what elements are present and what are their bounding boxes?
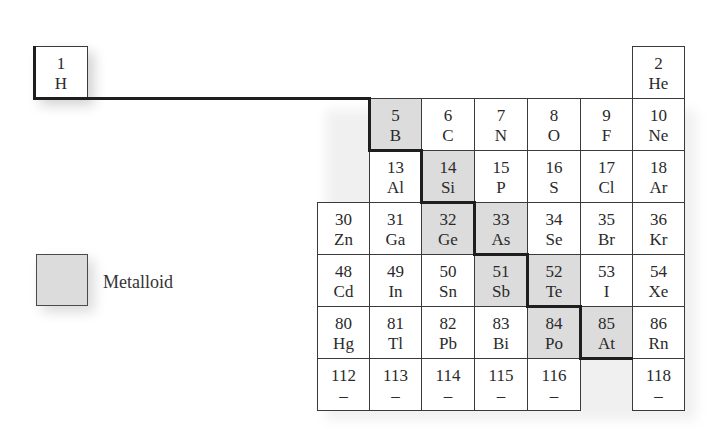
atomic-number: 51 <box>475 263 527 280</box>
element-cell-unnamed-116: 116– <box>527 358 581 411</box>
element-cell-h: 1H <box>34 46 88 99</box>
atomic-number: 6 <box>422 107 474 124</box>
element-symbol: S <box>528 179 580 196</box>
atomic-number: 81 <box>370 315 421 332</box>
element-symbol: N <box>475 127 527 144</box>
atomic-number: 10 <box>633 107 684 124</box>
element-cell-in: 49In <box>369 254 422 307</box>
element-cell-n: 7N <box>474 98 528 151</box>
element-symbol: Br <box>581 231 632 248</box>
element-symbol: Xe <box>633 283 684 300</box>
atomic-number: 31 <box>370 211 421 228</box>
atomic-number: 115 <box>475 367 527 384</box>
element-cell-si: 14Si <box>421 150 475 203</box>
element-symbol: At <box>581 335 632 352</box>
element-cell-tl: 81Tl <box>369 306 422 359</box>
element-symbol: O <box>528 127 580 144</box>
element-symbol: – <box>422 387 474 404</box>
element-cell-cd: 48Cd <box>317 254 370 307</box>
element-symbol: Pb <box>422 335 474 352</box>
boundary-segment <box>33 97 371 100</box>
element-cell-i: 53I <box>580 254 633 307</box>
boundary-segment <box>368 97 371 152</box>
atomic-number: 33 <box>475 211 527 228</box>
element-cell-ar: 18Ar <box>632 150 685 203</box>
element-symbol: H <box>35 75 87 92</box>
element-cell-as: 33As <box>474 202 528 255</box>
atomic-number: 82 <box>422 315 474 332</box>
element-cell-unnamed-112: 112– <box>317 358 370 411</box>
atomic-number: 50 <box>422 263 474 280</box>
atomic-number: 116 <box>528 367 580 384</box>
atomic-number: 32 <box>422 211 474 228</box>
element-cell-ge: 32Ge <box>421 202 475 255</box>
boundary-segment <box>526 305 582 308</box>
boundary-segment <box>579 357 633 360</box>
atomic-number: 86 <box>633 315 684 332</box>
element-symbol: P <box>475 179 527 196</box>
element-symbol: Ge <box>422 231 474 248</box>
element-cell-br: 35Br <box>580 202 633 255</box>
element-cell-ne: 10Ne <box>632 98 685 151</box>
atomic-number: 1 <box>35 55 87 72</box>
boundary-segment <box>420 149 423 204</box>
element-cell-po: 84Po <box>527 306 581 359</box>
boundary-segment <box>473 253 529 256</box>
atomic-number: 17 <box>581 159 632 176</box>
element-cell-bi: 83Bi <box>474 306 528 359</box>
atomic-number: 113 <box>370 367 421 384</box>
element-symbol: – <box>475 387 527 404</box>
legend-metalloid-label: Metalloid <box>103 272 173 293</box>
atomic-number: 112 <box>318 367 369 384</box>
element-symbol: Cl <box>581 179 632 196</box>
element-symbol: – <box>318 387 369 404</box>
atomic-number: 118 <box>633 367 684 384</box>
atomic-number: 52 <box>528 263 580 280</box>
element-symbol: Kr <box>633 231 684 248</box>
periodic-table-diagram: 1H2He5B6C7N8O9F10Ne13Al14Si15P16S17Cl18A… <box>0 0 717 445</box>
atomic-number: 84 <box>528 315 580 332</box>
element-cell-at: 85At <box>580 306 633 359</box>
atomic-number: 9 <box>581 107 632 124</box>
atomic-number: 83 <box>475 315 527 332</box>
element-cell-s: 16S <box>527 150 581 203</box>
element-symbol: Hg <box>318 335 369 352</box>
atomic-number: 53 <box>581 263 632 280</box>
element-symbol: – <box>528 387 580 404</box>
atomic-number: 8 <box>528 107 580 124</box>
atomic-number: 54 <box>633 263 684 280</box>
element-symbol: Al <box>370 179 421 196</box>
element-symbol: Sb <box>475 283 527 300</box>
boundary-segment <box>473 201 476 256</box>
atomic-number: 16 <box>528 159 580 176</box>
element-cell-unnamed-118: 118– <box>632 358 685 411</box>
element-symbol: – <box>370 387 421 404</box>
element-symbol: Se <box>528 231 580 248</box>
element-cell-ga: 31Ga <box>369 202 422 255</box>
element-symbol: I <box>581 283 632 300</box>
atomic-number: 49 <box>370 263 421 280</box>
element-symbol: Cd <box>318 283 369 300</box>
atomic-number: 30 <box>318 211 369 228</box>
element-symbol: B <box>370 127 421 144</box>
element-cell-p: 15P <box>474 150 528 203</box>
element-symbol: F <box>581 127 632 144</box>
atomic-number: 35 <box>581 211 632 228</box>
element-cell-o: 8O <box>527 98 581 151</box>
element-cell-xe: 54Xe <box>632 254 685 307</box>
element-cell-kr: 36Kr <box>632 202 685 255</box>
atomic-number: 7 <box>475 107 527 124</box>
element-cell-rn: 86Rn <box>632 306 685 359</box>
element-cell-unnamed-113: 113– <box>369 358 422 411</box>
element-symbol: C <box>422 127 474 144</box>
element-cell-sn: 50Sn <box>421 254 475 307</box>
element-symbol: Zn <box>318 231 369 248</box>
element-cell-b: 5B <box>369 98 422 151</box>
atomic-number: 36 <box>633 211 684 228</box>
element-symbol: In <box>370 283 421 300</box>
element-cell-c: 6C <box>421 98 475 151</box>
element-symbol: Tl <box>370 335 421 352</box>
element-cell-pb: 82Pb <box>421 306 475 359</box>
atomic-number: 80 <box>318 315 369 332</box>
element-symbol: – <box>633 387 684 404</box>
